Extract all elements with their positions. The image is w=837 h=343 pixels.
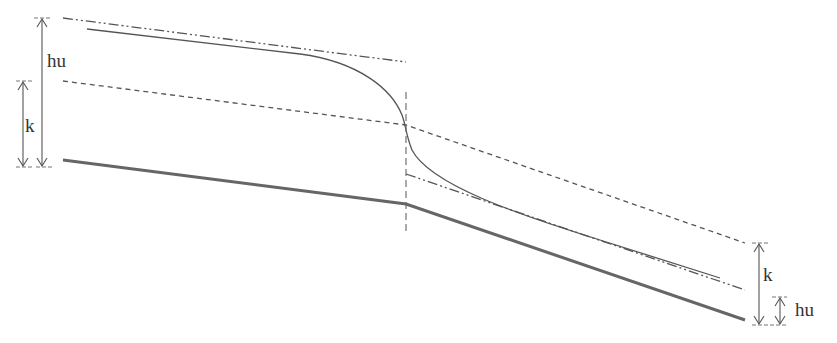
right-hu-label: hu	[795, 299, 815, 320]
critical-depth-line	[63, 81, 745, 243]
left-k-dimension: k	[16, 81, 35, 167]
upper-normal-depth-line	[63, 18, 406, 62]
lower-normal-depth-line	[406, 174, 745, 290]
left-hu-dimension: hu	[34, 18, 67, 167]
right-k-dimension: k	[752, 243, 773, 325]
water-surface-profile-diagram: hu k k hu	[0, 0, 837, 343]
water-surface-profile-curve	[87, 29, 720, 278]
left-k-label: k	[25, 115, 35, 136]
left-hu-label: hu	[47, 50, 67, 71]
channel-bed-line	[63, 160, 745, 320]
right-hu-dimension: hu	[770, 297, 815, 325]
right-k-label: k	[763, 264, 773, 285]
